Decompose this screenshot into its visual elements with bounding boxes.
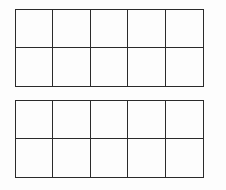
frame-cell bbox=[166, 10, 203, 48]
frame-cell bbox=[128, 10, 165, 48]
frame-cell bbox=[166, 48, 203, 86]
frame-cell bbox=[53, 48, 90, 86]
frame-cell bbox=[128, 101, 165, 139]
frame-cell bbox=[91, 10, 128, 48]
bottom-ten-frame bbox=[15, 100, 204, 178]
frame-cell bbox=[53, 101, 90, 139]
frame-cell bbox=[53, 139, 90, 177]
frame-cell bbox=[128, 48, 165, 86]
frame-cell bbox=[16, 139, 53, 177]
frame-cell bbox=[16, 10, 53, 48]
frame-cell bbox=[166, 139, 203, 177]
frame-cell bbox=[166, 101, 203, 139]
frame-cell bbox=[91, 101, 128, 139]
top-ten-frame bbox=[15, 9, 204, 87]
frame-cell bbox=[16, 101, 53, 139]
frame-cell bbox=[16, 48, 53, 86]
frame-cell bbox=[128, 139, 165, 177]
frame-cell bbox=[53, 10, 90, 48]
diagram-canvas bbox=[0, 0, 226, 190]
frame-cell bbox=[91, 139, 128, 177]
frame-cell bbox=[91, 48, 128, 86]
